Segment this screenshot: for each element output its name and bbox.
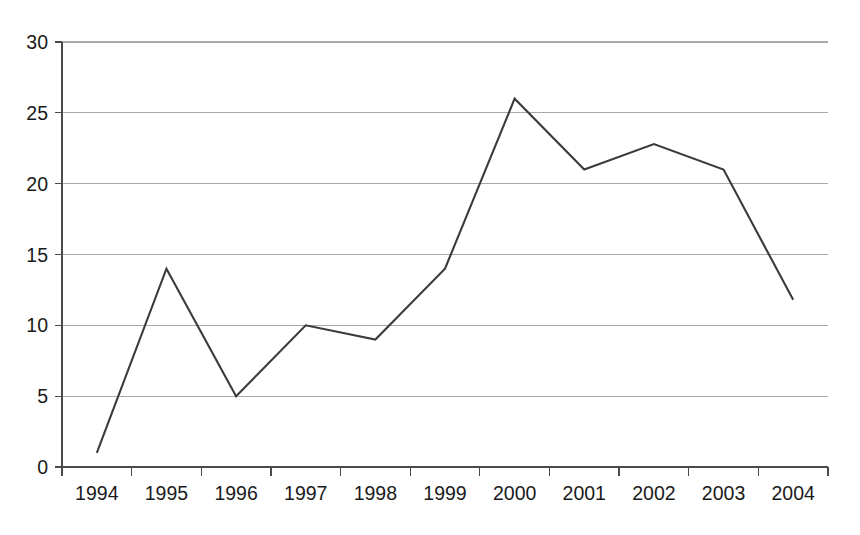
x-tick-label-1997: 1997 bbox=[284, 482, 327, 504]
x-tick-label-1999: 1999 bbox=[423, 482, 466, 504]
y-tick-group bbox=[55, 42, 62, 467]
y-tick-label-30: 30 bbox=[26, 31, 48, 53]
chart-page: 051015202530 199419951996199719981999200… bbox=[0, 0, 860, 535]
x-tick-label-2003: 2003 bbox=[702, 482, 745, 504]
x-tick-label-2000: 2000 bbox=[493, 482, 537, 504]
data-series-line bbox=[97, 99, 793, 453]
y-tick-label-10: 10 bbox=[26, 314, 48, 336]
y-tick-label-0: 0 bbox=[37, 456, 48, 478]
y-tick-label-5: 5 bbox=[37, 385, 48, 407]
x-tick-label-1995: 1995 bbox=[145, 482, 189, 504]
y-tick-label-15: 15 bbox=[26, 244, 48, 266]
x-tick-label-1998: 1998 bbox=[354, 482, 397, 504]
x-tick-group bbox=[62, 467, 828, 476]
x-axis-tick-labels: 1994199519961997199819992000200120022003… bbox=[75, 482, 815, 504]
y-tick-label-25: 25 bbox=[26, 102, 48, 124]
x-tick-label-1996: 1996 bbox=[214, 482, 257, 504]
gridline-group bbox=[62, 42, 828, 396]
x-tick-label-2004: 2004 bbox=[771, 482, 815, 504]
y-axis-tick-labels: 051015202530 bbox=[26, 31, 48, 478]
x-tick-label-2002: 2002 bbox=[632, 482, 675, 504]
line-chart-figure: 051015202530 199419951996199719981999200… bbox=[0, 0, 860, 535]
chart-svg: 051015202530 199419951996199719981999200… bbox=[0, 0, 860, 535]
x-tick-label-1994: 1994 bbox=[75, 482, 119, 504]
y-tick-label-20: 20 bbox=[26, 173, 48, 195]
x-tick-label-2001: 2001 bbox=[563, 482, 606, 504]
